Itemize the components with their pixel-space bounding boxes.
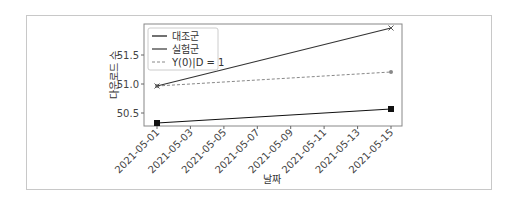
y-axis-label: 다운로드 수 <box>109 51 120 99</box>
y-tick-label: 50.5 <box>117 108 139 119</box>
square-marker-icon <box>388 106 394 112</box>
legend-label-control: 대조군 <box>172 31 199 42</box>
y-tick-label: 51.0 <box>117 79 139 90</box>
circle-marker-icon <box>389 70 393 74</box>
x-axis: 2021-05-01 2021-05-03 2021-05-05 2021-05… <box>113 126 396 185</box>
line-chart: 51.5 51.0 50.5 다운로드 수 2021-05-01 2021-05… <box>0 0 518 205</box>
square-marker-icon <box>154 120 160 126</box>
legend-label-treatment: 실험군 <box>172 44 199 55</box>
y-axis: 51.5 51.0 50.5 다운로드 수 <box>109 50 144 119</box>
series-counterfactual <box>155 70 393 88</box>
series-control <box>154 106 394 126</box>
y-tick-label: 51.5 <box>117 50 139 61</box>
legend: 대조군 실험군 Y(0)|D = 1 <box>148 28 224 70</box>
x-axis-label: 날짜 <box>263 174 281 185</box>
legend-label-counterfactual: Y(0)|D = 1 <box>171 57 224 69</box>
